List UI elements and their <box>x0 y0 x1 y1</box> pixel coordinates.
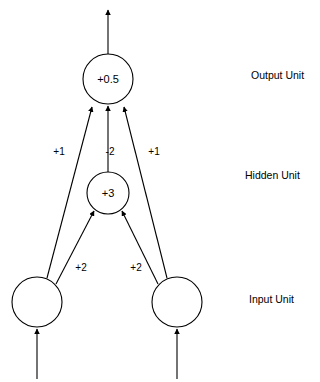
layer-label-input: Input Unit <box>249 294 294 305</box>
layer-label-output: Output Unit <box>251 70 304 81</box>
weight-label-hidden-to-output: -2 <box>106 146 115 157</box>
edge-right-input-to-output <box>124 107 167 278</box>
network-graph: +0.5 +3 +1 -2 +1 +2 +2 <box>0 0 320 382</box>
edge-left-input-to-output <box>47 107 92 278</box>
layer-label-hidden: Hidden Unit <box>245 170 300 181</box>
weight-label-right-to-hidden: +2 <box>130 262 142 273</box>
weight-label-left-to-hidden: +2 <box>75 262 87 273</box>
weight-label-right-skip: +1 <box>148 146 160 157</box>
hidden-unit-threshold: +3 <box>102 187 115 199</box>
input-unit-left[interactable] <box>12 277 62 327</box>
network-diagram: +0.5 +3 +1 -2 +1 +2 +2 Output Unit Hidde… <box>0 0 320 382</box>
output-unit-threshold: +0.5 <box>97 73 119 85</box>
input-unit-right[interactable] <box>152 277 202 327</box>
weight-label-left-skip: +1 <box>53 146 65 157</box>
